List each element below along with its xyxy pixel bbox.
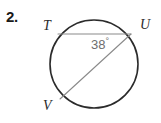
circle-outline: [50, 20, 138, 108]
angle-measure-value: 38: [91, 37, 105, 52]
geometry-figure: 2. T U V 38°: [0, 0, 161, 123]
vertex-label-v: V: [43, 99, 52, 113]
vertex-label-u: U: [140, 18, 150, 32]
degree-symbol: °: [105, 36, 109, 46]
circle-diagram-svg: [0, 0, 161, 123]
angle-measure-label: 38°: [91, 37, 109, 51]
vertex-label-t: T: [43, 19, 51, 33]
